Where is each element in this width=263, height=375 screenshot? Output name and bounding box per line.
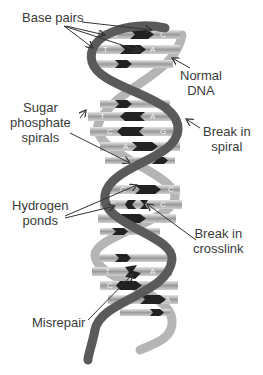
svg-text:A: A — [165, 295, 171, 304]
svg-text:C: C — [120, 185, 126, 194]
svg-text:T: T — [103, 45, 108, 54]
svg-text:G: G — [160, 127, 166, 136]
svg-text:C: C — [160, 200, 166, 209]
label-break-spiral-line1: Break in — [203, 124, 251, 139]
label-normal-dna-line2: DNA — [180, 83, 222, 98]
label-misrepair: Misrepair — [32, 315, 85, 330]
label-hydrogen-line1: Hydrogen — [12, 198, 68, 213]
label-sugar-line2: phosphate — [10, 115, 71, 130]
label-break-spiral-line2: spiral — [203, 139, 251, 154]
label-break-in-crosslink: Break in crosslink — [193, 226, 244, 256]
svg-text:T: T — [100, 112, 105, 121]
svg-text:C: C — [107, 281, 113, 290]
svg-text:A: A — [123, 142, 129, 151]
svg-text:C: C — [107, 127, 113, 136]
label-sugar-line3: spirals — [10, 130, 71, 145]
label-hydrogen-line2: ponds — [12, 213, 68, 228]
label-sugar-phosphate-spirals: Sugar phosphate spirals — [10, 100, 71, 145]
svg-text:C: C — [168, 185, 174, 194]
label-base-pairs: Base pairs — [22, 10, 83, 25]
label-break-in-spiral: Break in spiral — [203, 124, 251, 154]
label-normal-dna: Normal DNA — [180, 68, 222, 98]
svg-text:T: T — [105, 267, 110, 276]
label-sugar-line1: Sugar — [10, 100, 71, 115]
label-hydrogen-bonds: Hydrogen ponds — [12, 198, 68, 228]
svg-text:A: A — [150, 112, 156, 121]
svg-text:A: A — [150, 45, 156, 54]
label-normal-dna-line1: Normal — [180, 68, 222, 83]
svg-text:A: A — [150, 267, 156, 276]
label-break-crosslink-line1: Break in — [193, 226, 244, 241]
label-break-crosslink-line2: crosslink — [193, 241, 244, 256]
